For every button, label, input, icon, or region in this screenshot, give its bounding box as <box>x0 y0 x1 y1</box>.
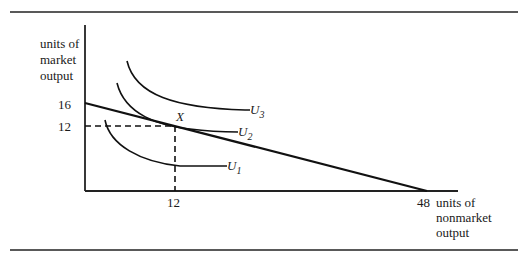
x-axis-label-line-2: nonmarket <box>436 210 492 225</box>
x-tick-48: 48 <box>417 195 430 210</box>
x-axis-label-line-3: output <box>436 225 470 240</box>
x-axis-label-line-1: units of <box>436 195 476 210</box>
y-tick-16: 16 <box>58 97 72 112</box>
curve-label-u2: U2 <box>238 124 252 142</box>
diagram: units of market output 16 12 12 48 units… <box>0 0 525 259</box>
tangency-point-label: X <box>175 109 185 124</box>
indifference-curve-u3 <box>127 61 250 110</box>
indifference-curve-u1 <box>105 120 227 166</box>
y-tick-12: 12 <box>58 119 71 134</box>
y-axis-label-line-1: units of <box>40 36 80 51</box>
y-axis-label-line-3: output <box>40 68 74 83</box>
x-tick-12: 12 <box>167 195 180 210</box>
indifference-curve-u2 <box>117 83 238 132</box>
y-axis-label-line-2: market <box>40 52 76 67</box>
curve-label-u1: U1 <box>227 158 241 176</box>
curve-label-u3: U3 <box>250 102 264 120</box>
